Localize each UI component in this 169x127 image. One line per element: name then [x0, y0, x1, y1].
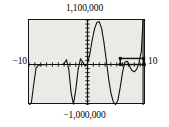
x-max-label: 10 — [148, 56, 168, 66]
plot-canvas — [29, 20, 146, 105]
y-min-label: −1,000,000 — [0, 110, 169, 120]
selection-handle[interactable] — [119, 57, 122, 60]
x-min-label: −10 — [3, 56, 27, 66]
plot-frame — [28, 19, 145, 104]
graph-figure: 1,100,000 −10 10 −1,000,000 — [0, 0, 169, 127]
y-max-label: 1,100,000 — [0, 3, 169, 13]
selection-handle[interactable] — [119, 63, 122, 66]
